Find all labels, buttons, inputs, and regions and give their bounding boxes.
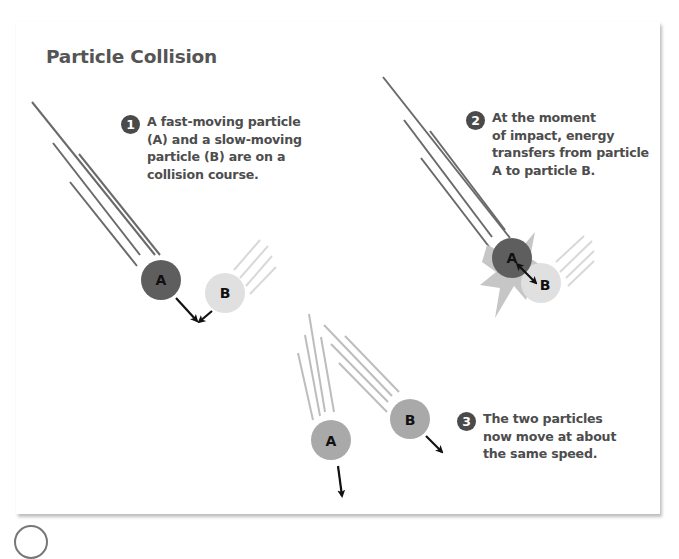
particle-b-motion-lines xyxy=(556,236,594,286)
step-2: 2 At the moment of impact, energy transf… xyxy=(466,109,649,179)
particle-b-label: B xyxy=(540,277,551,293)
step-description: The two particles now move at about the … xyxy=(483,410,616,463)
arrow-a-direction-icon xyxy=(338,466,342,496)
particle-a-label: A xyxy=(507,250,518,266)
particle-a-label: A xyxy=(326,433,337,449)
step-description: At the moment of impact, energy transfer… xyxy=(492,109,649,179)
step-1: 1 A fast-moving particle (A) and a slow-… xyxy=(121,113,302,183)
page-corner-circle xyxy=(14,525,48,559)
arrow-a-direction-icon xyxy=(176,298,197,321)
arrow-b-direction-icon xyxy=(199,311,212,322)
particle-b-label: B xyxy=(405,412,416,428)
step-description: A fast-moving particle (A) and a slow-mo… xyxy=(147,113,302,183)
step-number-badge: 3 xyxy=(457,412,476,431)
arrow-b-direction-icon xyxy=(426,436,442,452)
panel-3-after: A B xyxy=(298,314,442,496)
particle-b-motion-lines xyxy=(324,325,399,412)
particle-a-label: A xyxy=(156,272,167,288)
step-number-badge: 2 xyxy=(466,111,485,130)
step-3: 3 The two particles now move at about th… xyxy=(457,410,616,463)
particle-b-label: B xyxy=(220,285,231,301)
step-number-badge: 1 xyxy=(121,115,140,134)
